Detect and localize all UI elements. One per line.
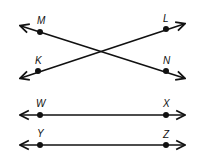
point-label-W: W — [36, 98, 47, 109]
point-label-X: X — [162, 98, 170, 109]
point-L — [163, 26, 169, 32]
points-layer: MLKNWXYZ — [35, 13, 171, 148]
point-label-M: M — [37, 15, 46, 26]
point-M — [37, 29, 43, 35]
lines-diagram: MLKNWXYZ — [0, 0, 206, 162]
point-label-Y: Y — [37, 128, 45, 139]
point-label-L: L — [163, 13, 169, 24]
point-Z — [163, 142, 169, 148]
point-W — [37, 112, 43, 118]
point-label-Z: Z — [162, 129, 170, 140]
point-N — [163, 68, 169, 74]
point-label-N: N — [163, 55, 171, 66]
point-Y — [37, 142, 43, 148]
lines-layer — [21, 24, 184, 145]
point-K — [35, 68, 41, 74]
point-label-K: K — [35, 55, 43, 66]
point-X — [163, 112, 169, 118]
